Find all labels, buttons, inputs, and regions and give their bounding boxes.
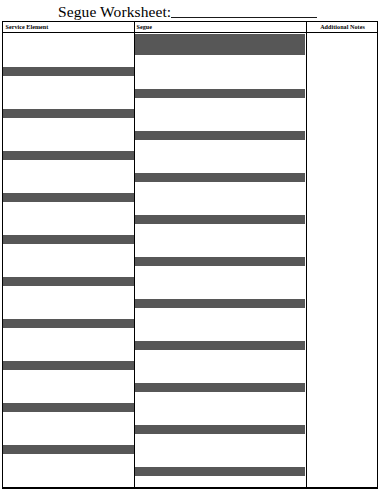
table-header-row: Service Element Segue Additional Notes (3, 22, 377, 33)
segue-fill-bar (135, 257, 305, 266)
service-element-fill-bar (3, 403, 134, 412)
column-header-service-element: Service Element (3, 22, 134, 32)
service-element-fill-bar (3, 151, 134, 160)
segue-fill-bar (135, 467, 305, 476)
column-header-additional-notes: Additional Notes (306, 22, 379, 32)
segue-fill-bar (135, 425, 305, 434)
segue-fill-bar (135, 215, 305, 224)
service-element-fill-bar (3, 445, 134, 454)
service-element-fill-bar (3, 193, 134, 202)
table-bottom-rule (3, 487, 377, 488)
service-element-fill-bar (3, 277, 134, 286)
service-element-fill-bar (3, 67, 134, 76)
service-element-fill-bar (3, 109, 134, 118)
segue-fill-bar (135, 383, 305, 392)
column-body-service-element[interactable] (3, 33, 134, 488)
column-header-segue: Segue (134, 22, 306, 32)
segue-fill-bar (135, 131, 305, 140)
segue-fill-bar (135, 341, 305, 350)
segue-fill-bar (135, 173, 305, 182)
service-element-fill-bar (3, 361, 134, 370)
service-element-fill-bar (3, 235, 134, 244)
service-element-fill-bar (3, 319, 134, 328)
column-body-segue[interactable] (135, 33, 306, 488)
worksheet-title-row: Segue Worksheet: (0, 0, 380, 20)
segue-fill-bar (135, 34, 305, 55)
segue-fill-bar (135, 89, 305, 98)
page-title: Segue Worksheet: (58, 3, 171, 20)
segue-worksheet-table: Service Element Segue Additional Notes (2, 21, 378, 489)
title-blank-fill-in-line[interactable] (171, 17, 317, 18)
column-body-additional-notes[interactable] (307, 33, 379, 488)
segue-fill-bar (135, 299, 305, 308)
